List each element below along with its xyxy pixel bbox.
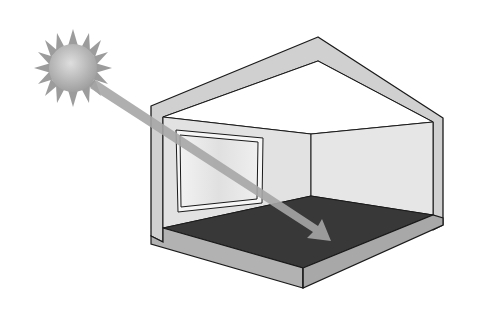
solar-gain-diagram: [0, 0, 483, 312]
house-cutaway: [151, 37, 443, 288]
sun-icon: [34, 29, 112, 107]
